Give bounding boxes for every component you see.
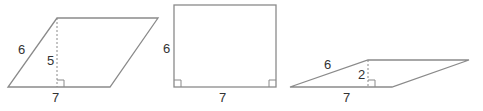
base-label-1: 7 <box>52 90 59 105</box>
rectangle-2-outline <box>174 5 276 87</box>
parallelogram-3-outline <box>290 60 469 87</box>
side-label-2: 6 <box>163 41 170 56</box>
height-label-3: 2 <box>358 67 365 82</box>
rectangle-2: 6 7 <box>163 5 276 105</box>
parallelogram-1: 6 5 7 <box>8 18 158 105</box>
parallelogram-3: 6 2 7 <box>290 57 469 105</box>
side-label-3: 6 <box>324 57 331 72</box>
shapes-diagram: 6 5 7 6 7 6 2 7 <box>0 0 483 111</box>
right-angle-marker-2a <box>174 80 181 87</box>
base-label-3: 7 <box>343 90 350 105</box>
height-label-1: 5 <box>47 53 54 68</box>
right-angle-marker-3 <box>368 80 375 87</box>
right-angle-marker-1 <box>57 80 64 87</box>
base-label-2: 7 <box>219 90 226 105</box>
right-angle-marker-2b <box>269 80 276 87</box>
side-label-1: 6 <box>18 42 25 57</box>
parallelogram-1-outline <box>8 18 158 87</box>
